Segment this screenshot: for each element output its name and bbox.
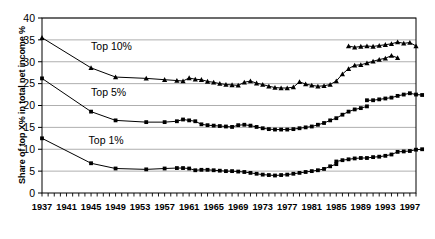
- series-marker: [334, 116, 338, 120]
- series-marker: [298, 126, 302, 130]
- series-marker: [346, 43, 351, 48]
- x-axis-tick-label: 1953: [130, 202, 150, 212]
- y-axis-tick-label: 0: [29, 187, 35, 199]
- series-marker: [365, 156, 369, 160]
- series-marker: [297, 79, 302, 84]
- series-marker: [341, 158, 345, 162]
- x-axis-tick-label: 1945: [81, 202, 101, 212]
- series-top-5-series-break: [365, 91, 424, 102]
- series-marker: [334, 160, 338, 164]
- x-axis-tick-label: 1937: [32, 202, 52, 212]
- series-marker: [279, 128, 283, 132]
- y-axis-tick-label: 30: [23, 56, 35, 68]
- series-marker: [279, 173, 283, 177]
- series-marker: [413, 43, 418, 48]
- series-marker: [383, 154, 387, 158]
- series-marker: [175, 166, 179, 170]
- series-marker: [396, 150, 400, 154]
- series-marker: [359, 156, 363, 160]
- series-marker: [304, 170, 308, 174]
- series-marker: [322, 121, 326, 125]
- x-axis-tick-label: 1981: [302, 202, 322, 212]
- series-marker: [267, 173, 271, 177]
- series-marker: [347, 157, 351, 161]
- x-axis-tick-label: 1997: [400, 202, 420, 212]
- series-top-10-series-break: [346, 39, 419, 49]
- series-marker: [353, 108, 357, 112]
- y-axis-tick-label: 25: [23, 77, 35, 89]
- series-marker: [181, 118, 185, 122]
- series-marker: [310, 169, 314, 173]
- series-marker: [39, 35, 44, 40]
- series-marker: [175, 119, 179, 123]
- series-marker: [242, 170, 246, 174]
- series-marker: [187, 167, 191, 171]
- series-marker: [206, 168, 210, 172]
- series-marker: [218, 169, 222, 173]
- series-marker: [88, 65, 93, 70]
- x-axis-tick-label: 1941: [56, 202, 76, 212]
- series-marker: [420, 147, 424, 151]
- series-marker: [144, 120, 148, 124]
- series-marker: [163, 167, 167, 171]
- x-axis-tick-label: 1965: [203, 202, 223, 212]
- x-axis-tick-label: 1961: [179, 202, 199, 212]
- series-marker: [144, 167, 148, 171]
- series-marker: [414, 148, 418, 152]
- series-marker: [298, 171, 302, 175]
- series-marker: [40, 136, 44, 140]
- x-axis-tick-label: 1989: [351, 202, 371, 212]
- income-share-line-chart: Share of top X% in total net income % 05…: [0, 0, 435, 239]
- series-annotation: Top 1%: [89, 134, 124, 146]
- series-annotation: Top 5%: [91, 86, 126, 98]
- series-marker: [291, 127, 295, 131]
- y-axis-tick-label: 5: [29, 165, 35, 177]
- series-marker: [347, 110, 351, 114]
- series-marker: [371, 98, 375, 102]
- series-marker: [365, 98, 369, 102]
- series-marker: [414, 93, 418, 97]
- series-marker: [236, 123, 240, 127]
- series-marker: [359, 106, 363, 110]
- series-marker: [291, 172, 295, 176]
- series-marker: [390, 153, 394, 157]
- series-marker: [389, 53, 394, 58]
- series-marker: [255, 172, 259, 176]
- y-axis-tick-label: 40: [23, 12, 35, 24]
- series-marker: [212, 124, 216, 128]
- series-marker: [193, 119, 197, 123]
- series-marker: [267, 127, 271, 131]
- x-axis-tick-label: 1969: [228, 202, 248, 212]
- y-axis-tick-label: 35: [23, 34, 35, 46]
- series-marker: [249, 171, 253, 175]
- y-axis-tick-label: 10: [23, 143, 35, 155]
- series-marker: [261, 126, 265, 130]
- series-marker: [261, 173, 265, 177]
- chart-plot-area: 0510152025303540193719411945194919531957…: [0, 0, 435, 239]
- x-axis-tick-label: 1993: [375, 202, 395, 212]
- series-annotation: Top 10%: [91, 40, 132, 52]
- series-marker: [353, 157, 357, 161]
- series-marker: [420, 93, 424, 97]
- x-axis-tick-label: 1949: [105, 202, 125, 212]
- series-marker: [89, 110, 93, 114]
- series-marker: [224, 169, 228, 173]
- series-marker: [249, 124, 253, 128]
- series-marker: [248, 78, 253, 83]
- series-marker: [242, 123, 246, 127]
- series-marker: [377, 97, 381, 101]
- series-marker: [341, 113, 345, 117]
- series-marker: [218, 124, 222, 128]
- series-marker: [310, 125, 314, 129]
- series-marker: [328, 118, 332, 122]
- series-marker: [390, 96, 394, 100]
- series-marker: [408, 149, 412, 153]
- series-marker: [408, 91, 412, 95]
- series-marker: [402, 150, 406, 154]
- series-marker: [383, 97, 387, 101]
- series-marker: [346, 66, 351, 71]
- series-marker: [402, 93, 406, 97]
- series-marker: [230, 125, 234, 129]
- series-line: [349, 42, 416, 47]
- series-marker: [187, 118, 191, 122]
